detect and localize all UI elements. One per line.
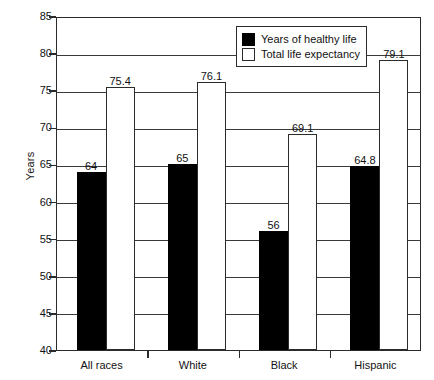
legend-item-total-life-expectancy: Total life expectancy bbox=[242, 47, 360, 61]
y-tick-label: 45 bbox=[12, 308, 52, 319]
y-tick-mark bbox=[49, 350, 56, 352]
y-tick-mark bbox=[49, 202, 56, 204]
bar bbox=[106, 87, 135, 350]
y-tick-label: 75 bbox=[12, 85, 52, 96]
bar bbox=[168, 164, 197, 350]
bar-value-label: 75.4 bbox=[98, 75, 143, 87]
x-tick-mark bbox=[147, 351, 149, 358]
bar-value-label: 76.1 bbox=[189, 70, 234, 82]
y-tick-mark bbox=[49, 16, 56, 18]
y-tick-label: 65 bbox=[12, 159, 52, 170]
y-tick-mark bbox=[49, 313, 56, 315]
x-tick-label: All races bbox=[56, 359, 147, 371]
y-tick-label: 55 bbox=[12, 234, 52, 245]
bar bbox=[259, 231, 288, 350]
legend-label: Total life expectancy bbox=[261, 48, 360, 60]
y-tick-mark bbox=[49, 165, 56, 167]
y-tick-mark bbox=[49, 128, 56, 130]
y-tick-label: 50 bbox=[12, 271, 52, 282]
y-tick-label: 40 bbox=[12, 345, 52, 356]
y-tick-label: 80 bbox=[12, 48, 52, 59]
x-tick-mark bbox=[330, 351, 332, 358]
legend-swatch-icon-light bbox=[242, 48, 255, 61]
x-tick-label: Black bbox=[239, 359, 330, 371]
x-tick-label: White bbox=[147, 359, 238, 371]
x-tick-mark bbox=[239, 351, 241, 358]
y-tick-label: 70 bbox=[12, 122, 52, 133]
chart-legend: Years of healthy life Total life expecta… bbox=[236, 26, 367, 67]
bar bbox=[197, 82, 226, 350]
chart-page: Years 40455055606570758085 6475.46576.15… bbox=[0, 0, 434, 380]
bar-value-label: 69.1 bbox=[280, 122, 325, 134]
legend-swatch-icon-dark bbox=[242, 33, 255, 46]
y-tick-label: 85 bbox=[12, 11, 52, 22]
bar bbox=[350, 166, 379, 350]
legend-item-years-of-healthy-life: Years of healthy life bbox=[242, 32, 360, 46]
plot-area: 6475.46576.15669.164.879.1 bbox=[56, 17, 421, 351]
y-tick-mark bbox=[49, 239, 56, 241]
y-tick-mark bbox=[49, 90, 56, 92]
bar-value-label: 79.1 bbox=[371, 48, 416, 60]
y-tick-label: 60 bbox=[12, 197, 52, 208]
y-tick-mark bbox=[49, 276, 56, 278]
bar bbox=[77, 172, 106, 350]
plot-inner: 6475.46576.15669.164.879.1 bbox=[57, 18, 420, 350]
bar bbox=[288, 134, 317, 350]
x-tick-label: Hispanic bbox=[330, 359, 421, 371]
bar bbox=[379, 60, 408, 350]
y-tick-mark bbox=[49, 53, 56, 55]
legend-label: Years of healthy life bbox=[261, 33, 357, 45]
